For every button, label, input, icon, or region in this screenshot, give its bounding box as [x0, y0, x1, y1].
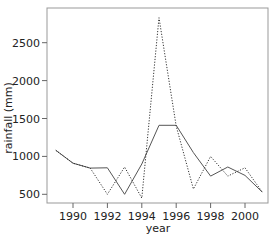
y-tick-label: 500 [19, 188, 40, 201]
y-tick-label: 1500 [12, 113, 40, 126]
y-tick-label: 2000 [12, 75, 40, 88]
y-tick-label: 1000 [12, 150, 40, 163]
x-tick-label: 1998 [197, 210, 225, 223]
y-axis-label: rainfall (mm) [2, 82, 15, 154]
x-axis-label: year [146, 222, 171, 235]
x-axis: 199019921994199619982000 [59, 203, 259, 223]
y-axis: 5001000150020002500 [12, 37, 47, 202]
y-tick-label: 2500 [12, 37, 40, 50]
x-tick-label: 1992 [93, 210, 121, 223]
x-tick-label: 1990 [59, 210, 87, 223]
series-line-solid [56, 125, 262, 194]
x-tick-label: 2000 [231, 210, 259, 223]
series-line-dotted [56, 18, 262, 198]
rainfall-line-chart: 5001000150020002500 19901992199419961998… [0, 0, 271, 238]
series-group [56, 18, 262, 198]
